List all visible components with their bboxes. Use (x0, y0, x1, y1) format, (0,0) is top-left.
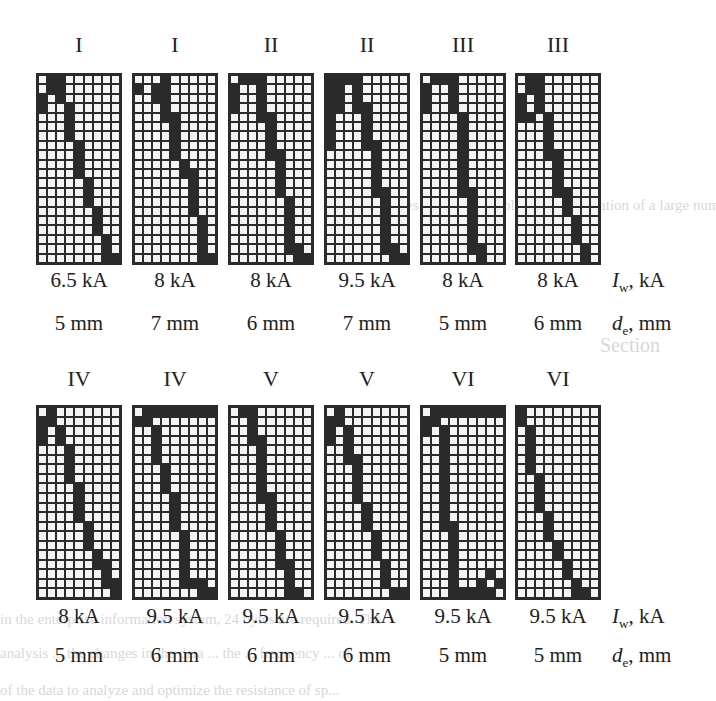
grid-cell-empty (94, 245, 101, 252)
grid-cell-empty (354, 589, 361, 597)
grid-cell-empty (75, 446, 82, 454)
grid-cell-empty (267, 570, 274, 578)
grid-cell-empty (208, 123, 215, 130)
grid-cell-empty (112, 208, 119, 215)
grid-cell-filled (441, 475, 448, 483)
grid-cell-empty (75, 76, 82, 83)
grid-cell-empty (545, 551, 552, 559)
grid-cell-empty (478, 151, 485, 158)
grid-cell-empty (286, 523, 293, 531)
grid-cell-filled (545, 532, 552, 540)
grid-cell-empty (144, 427, 151, 435)
grid-cell-filled (478, 580, 485, 588)
grid-cell-empty (391, 513, 398, 521)
grid-cell-empty (267, 532, 274, 540)
grid-cell-empty (57, 245, 64, 252)
grid-cell-filled (423, 95, 430, 102)
grid-cell-empty (208, 104, 215, 111)
grid-cell-empty (518, 255, 525, 262)
grid-cell-filled (286, 208, 293, 215)
grid-cell-empty (391, 504, 398, 512)
grid-cell-empty (496, 437, 503, 445)
grid-cell-empty (208, 198, 215, 205)
grid-cell-empty (450, 504, 457, 512)
grid-cell-empty (373, 589, 380, 597)
grid-cell-empty (432, 114, 439, 121)
grid-cell-empty (327, 446, 334, 454)
grid-cell-empty (199, 132, 206, 139)
grid-cell-empty (295, 427, 302, 435)
grid-cell-filled (345, 456, 352, 464)
grid-cell-empty (190, 123, 197, 130)
grid-cell-empty (48, 123, 55, 130)
grid-cell-empty (441, 142, 448, 149)
grid-cell-empty (400, 427, 407, 435)
grid-cell-empty (153, 589, 160, 597)
grid-cell-empty (85, 475, 92, 483)
grid-cell-empty (518, 208, 525, 215)
grid-cell-empty (48, 542, 55, 550)
current-value-label: 8 kA (508, 268, 608, 293)
grid-cell-filled (258, 104, 265, 111)
grid-cell-empty (199, 456, 206, 464)
grid-cell-empty (286, 418, 293, 426)
grid-cell-empty (286, 170, 293, 177)
grid-cell-empty (536, 437, 543, 445)
current-unit: , kA (628, 604, 664, 628)
grid-cell-filled (85, 523, 92, 531)
grid-cell-empty (527, 570, 534, 578)
grid-cell-empty (286, 142, 293, 149)
grid-cell-empty (94, 494, 101, 502)
grid-cell-empty (363, 427, 370, 435)
grid-cell-filled (441, 465, 448, 473)
grid-cell-empty (94, 95, 101, 102)
grid-cell-empty (536, 132, 543, 139)
grid-cell-empty (190, 561, 197, 569)
grid-cell-empty (304, 151, 311, 158)
grid-cell-filled (363, 104, 370, 111)
grid-cell-empty (591, 542, 598, 550)
grid-cell-filled (432, 76, 439, 83)
grid-cell-filled (459, 408, 466, 416)
grid-cell-empty (295, 494, 302, 502)
grid-cell-empty (382, 494, 389, 502)
grid-cell-empty (135, 513, 142, 521)
grid-cell-empty (573, 132, 580, 139)
grid-cell-empty (103, 179, 110, 186)
grid-cell-empty (112, 504, 119, 512)
grid-cell-empty (573, 427, 580, 435)
grid-cell-empty (75, 114, 82, 121)
grid-cell-empty (591, 513, 598, 521)
grid-cell-empty (423, 408, 430, 416)
grid-cell-empty (518, 170, 525, 177)
grid-cell-empty (527, 255, 534, 262)
grid-cell-filled (181, 170, 188, 177)
grid-cell-filled (450, 95, 457, 102)
grid-cell-empty (536, 189, 543, 196)
grid-cell-empty (75, 580, 82, 588)
nugget-grid (420, 73, 506, 265)
grid-cell-empty (564, 456, 571, 464)
grid-cell-empty (423, 437, 430, 445)
grid-cell-empty (554, 494, 561, 502)
grid-cell-empty (432, 226, 439, 233)
grid-cell-empty (231, 114, 238, 121)
grid-cell-empty (536, 418, 543, 426)
grid-cell-empty (545, 208, 552, 215)
grid-cell-empty (496, 570, 503, 578)
grid-cell-empty (75, 189, 82, 196)
grid-cell-empty (554, 95, 561, 102)
grid-cell-empty (536, 151, 543, 158)
grid-cell-empty (363, 179, 370, 186)
grid-cell-empty (171, 484, 178, 492)
grid-cell-empty (400, 123, 407, 130)
grid-cell-filled (103, 245, 110, 252)
grid-cell-empty (66, 142, 73, 149)
grid-cell-filled (354, 85, 361, 92)
class-header: IV (36, 366, 122, 392)
grid-cell-filled (286, 198, 293, 205)
grid-cell-empty (354, 170, 361, 177)
grid-cell-empty (459, 437, 466, 445)
grid-cell-empty (39, 589, 46, 597)
grid-cell-empty (327, 226, 334, 233)
